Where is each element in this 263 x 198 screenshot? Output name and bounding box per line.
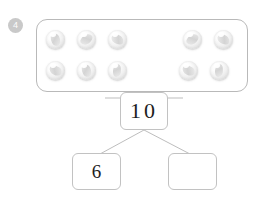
marble-icon	[179, 61, 198, 80]
worksheet-canvas: 4	[0, 0, 263, 198]
marble-row	[41, 58, 164, 82]
number-bond-part-right-blank[interactable]	[168, 153, 217, 190]
marble-row	[41, 27, 164, 51]
marble-icon	[46, 61, 65, 80]
marble-icon	[77, 30, 96, 49]
marble-frame	[36, 19, 248, 92]
marble-icon	[108, 30, 127, 49]
number-bond-part-left[interactable]: 6	[72, 153, 121, 190]
marble-group-left	[41, 20, 159, 91]
marble-row	[177, 58, 247, 82]
marble-icon	[183, 30, 202, 49]
marble-icon	[46, 30, 65, 49]
marble-icon	[108, 61, 127, 80]
problem-number-badge: 4	[8, 18, 23, 33]
number-bond-total: 10	[120, 92, 168, 130]
marble-icon	[77, 61, 96, 80]
marble-icon	[214, 30, 233, 49]
marble-row	[177, 27, 251, 51]
marble-icon	[210, 61, 229, 80]
marble-group-right	[177, 20, 245, 91]
